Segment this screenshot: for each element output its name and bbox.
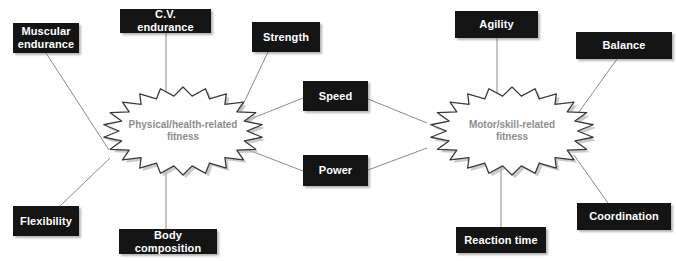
node-label-agility: Agility	[479, 18, 513, 31]
node-box-cv-endurance[interactable]: C.V. endurance	[120, 9, 211, 33]
node-label-cv-endurance: C.V. endurance	[126, 8, 205, 34]
starburst-motor	[431, 87, 596, 178]
node-box-flexibility[interactable]: Flexibility	[13, 206, 79, 236]
node-box-balance[interactable]: Balance	[576, 32, 672, 59]
node-label-strength: Strength	[263, 31, 309, 44]
node-box-strength[interactable]: Strength	[252, 22, 320, 52]
node-box-reaction-time[interactable]: Reaction time	[456, 227, 546, 253]
starburst-physical	[104, 87, 265, 178]
node-label-flexibility: Flexibility	[20, 215, 72, 228]
node-box-body-composition[interactable]: Body composition	[119, 229, 217, 254]
node-label-muscular-endurance: Muscular endurance	[18, 25, 75, 51]
fitness-concept-diagram: Physical/health-related fitness Motor/sk…	[0, 0, 676, 261]
node-box-agility[interactable]: Agility	[455, 11, 538, 38]
starburst-shapes-layer	[0, 0, 676, 261]
node-label-reaction-time: Reaction time	[464, 234, 537, 247]
node-label-body-composition: Body composition	[125, 229, 211, 255]
node-label-power: Power	[319, 164, 353, 177]
node-label-balance: Balance	[603, 39, 646, 52]
node-box-power[interactable]: Power	[303, 155, 368, 186]
node-label-speed: Speed	[319, 90, 353, 103]
node-label-coordination: Coordination	[589, 210, 659, 223]
node-box-muscular-endurance[interactable]: Muscular endurance	[13, 23, 79, 53]
node-box-speed[interactable]: Speed	[303, 81, 368, 111]
node-box-coordination[interactable]: Coordination	[577, 203, 671, 230]
